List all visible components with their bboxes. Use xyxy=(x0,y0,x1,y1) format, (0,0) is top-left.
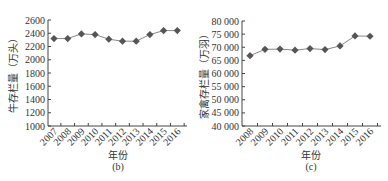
y-tick-label: 70 000 xyxy=(212,42,240,53)
data-point-marker xyxy=(133,38,140,45)
data-point-marker xyxy=(351,32,358,39)
panel-label: (b) xyxy=(112,161,124,173)
data-point-marker xyxy=(174,27,181,34)
data-point-marker xyxy=(146,31,153,38)
y-tick-label: 55 000 xyxy=(212,81,240,92)
data-point-marker xyxy=(92,31,99,38)
y-tick-label: 1400 xyxy=(25,94,45,105)
y-tick-label: 75 000 xyxy=(212,29,240,40)
y-tick-label: 2000 xyxy=(25,54,45,65)
data-point-marker xyxy=(336,42,343,49)
data-point-marker xyxy=(366,33,373,40)
y-tick-label: 2200 xyxy=(25,41,45,52)
data-point-marker xyxy=(306,45,313,52)
data-point-marker xyxy=(119,38,126,45)
figure: 1000120014001600180020002200240026002007… xyxy=(0,0,388,181)
y-tick-label: 1600 xyxy=(25,81,45,92)
y-tick-label: 60 000 xyxy=(212,68,240,79)
data-point-marker xyxy=(105,36,112,43)
y-tick-label: 65 000 xyxy=(212,55,240,66)
y-axis-title: 家禽存栏量（万羽） xyxy=(198,29,210,119)
data-point-marker xyxy=(50,35,57,42)
x-axis-title: 年份 xyxy=(301,149,321,161)
y-tick-label: 40 000 xyxy=(212,121,240,132)
y-tick-label: 50 000 xyxy=(212,94,240,105)
data-line xyxy=(54,31,177,42)
chart-b-cattle-stock: 1000120014001600180020002200240026002007… xyxy=(7,15,187,174)
y-axis-title: 牛存栏量（万头） xyxy=(7,33,19,113)
panel-label: (c) xyxy=(305,161,316,173)
y-tick-label: 1800 xyxy=(25,68,45,79)
x-tick-label: 2016 xyxy=(353,126,375,148)
data-point-marker xyxy=(78,30,85,37)
charts-canvas: 1000120014001600180020002200240026002007… xyxy=(0,0,388,181)
data-point-marker xyxy=(64,35,71,42)
data-point-marker xyxy=(160,27,167,34)
y-tick-label: 45 000 xyxy=(212,107,240,118)
data-point-marker xyxy=(276,45,283,52)
y-tick-label: 1000 xyxy=(25,121,45,132)
y-tick-label: 2600 xyxy=(25,15,45,26)
chart-c-poultry-stock: 40 00045 00050 00055 00060 00065 00070 0… xyxy=(198,16,381,174)
y-tick-label: 2400 xyxy=(25,28,45,39)
data-point-marker xyxy=(261,46,268,53)
y-tick-label: 80 000 xyxy=(212,16,240,27)
data-point-marker xyxy=(291,47,298,54)
x-axis-title: 年份 xyxy=(108,149,128,161)
data-point-marker xyxy=(246,52,253,59)
y-tick-label: 1200 xyxy=(25,107,45,118)
data-point-marker xyxy=(321,46,328,53)
